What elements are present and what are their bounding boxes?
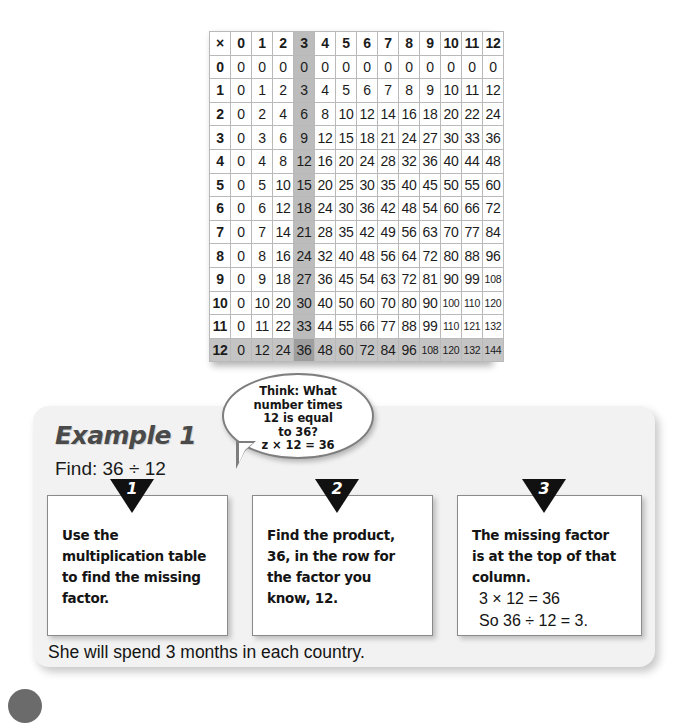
table-cell: 44 bbox=[315, 315, 336, 339]
row-header-0: 0 bbox=[210, 55, 231, 79]
step-text-2: Find the product, 36, in the row for the… bbox=[267, 525, 424, 609]
row-header-3: 3 bbox=[210, 126, 231, 150]
table-cell: 16 bbox=[315, 149, 336, 173]
column-header-12: 12 bbox=[483, 32, 504, 56]
example-panel: Example 1 Find: 36 ÷ 12 Think: What numb… bbox=[33, 406, 655, 667]
table-cell: 77 bbox=[378, 315, 399, 339]
row-header-5: 5 bbox=[210, 173, 231, 197]
step-number-badge-2: 2 bbox=[315, 479, 359, 513]
row-header-12: 12 bbox=[210, 338, 231, 362]
column-header-8: 8 bbox=[399, 32, 420, 56]
table-cell: 88 bbox=[462, 244, 483, 268]
table-cell: 66 bbox=[462, 197, 483, 221]
table-cell: 0 bbox=[483, 55, 504, 79]
thought-bubble-line: number times bbox=[224, 399, 372, 413]
table-cell: 60 bbox=[441, 197, 462, 221]
table-cell: 0 bbox=[378, 55, 399, 79]
table-cell: 0 bbox=[231, 338, 252, 362]
table-cell: 70 bbox=[378, 291, 399, 315]
table-row: 6061218243036424854606672 bbox=[210, 197, 504, 221]
table-row: 5051015202530354045505560 bbox=[210, 173, 504, 197]
table-cell: 0 bbox=[357, 55, 378, 79]
table-cell: 3 bbox=[294, 79, 315, 103]
thought-bubble: Think: What number times 12 is equal to … bbox=[222, 373, 374, 459]
table-cell: 1 bbox=[252, 79, 273, 103]
thought-bubble-line: Think: What bbox=[224, 385, 372, 399]
table-cell: 6 bbox=[294, 102, 315, 126]
step-line: 36, in the row for bbox=[267, 546, 424, 567]
table-cell: 0 bbox=[231, 79, 252, 103]
table-cell: 0 bbox=[231, 244, 252, 268]
table-row: 404812162024283236404448 bbox=[210, 149, 504, 173]
table-cell: 11 bbox=[462, 79, 483, 103]
table-cell: 7 bbox=[378, 79, 399, 103]
table-cell: 22 bbox=[273, 315, 294, 339]
table-cell: 9 bbox=[294, 126, 315, 150]
table-cell: 24 bbox=[357, 149, 378, 173]
table-cell: 108 bbox=[420, 338, 441, 362]
table-cell: 54 bbox=[357, 267, 378, 291]
table-cell: 80 bbox=[399, 291, 420, 315]
table-cell: 60 bbox=[357, 291, 378, 315]
table-row: 30369121518212427303336 bbox=[210, 126, 504, 150]
table-cell: 72 bbox=[399, 267, 420, 291]
table-cell: 54 bbox=[420, 197, 441, 221]
table-cell: 4 bbox=[315, 79, 336, 103]
table-cell: 132 bbox=[462, 338, 483, 362]
table-cell: 132 bbox=[483, 315, 504, 339]
table-row: 1201224364860728496108120132144 bbox=[210, 338, 504, 362]
table-cell: 11 bbox=[252, 315, 273, 339]
table-cell: 0 bbox=[399, 55, 420, 79]
table-cell: 30 bbox=[357, 173, 378, 197]
step-text-1: Use the multiplication table to find the… bbox=[62, 525, 219, 609]
table-cell: 32 bbox=[315, 244, 336, 268]
table-cell: 24 bbox=[483, 102, 504, 126]
table-cell: 60 bbox=[483, 173, 504, 197]
table-cell: 48 bbox=[315, 338, 336, 362]
table-cell: 45 bbox=[336, 267, 357, 291]
table-cell: 5 bbox=[252, 173, 273, 197]
table-cell: 27 bbox=[420, 126, 441, 150]
table-cell: 21 bbox=[378, 126, 399, 150]
column-header-0: 0 bbox=[231, 32, 252, 56]
table-cell: 110 bbox=[441, 315, 462, 339]
table-cell: 35 bbox=[336, 220, 357, 244]
table-cell: 20 bbox=[273, 291, 294, 315]
table-cell: 10 bbox=[252, 291, 273, 315]
step-line: the factor you bbox=[267, 567, 424, 588]
table-cell: 0 bbox=[336, 55, 357, 79]
table-cell: 0 bbox=[231, 220, 252, 244]
table-cell: 33 bbox=[462, 126, 483, 150]
table-cell: 8 bbox=[399, 79, 420, 103]
table-cell: 88 bbox=[399, 315, 420, 339]
table-cell: 0 bbox=[420, 55, 441, 79]
row-header-9: 9 bbox=[210, 267, 231, 291]
table-cell: 24 bbox=[399, 126, 420, 150]
table-cell: 36 bbox=[420, 149, 441, 173]
table-cell: 50 bbox=[441, 173, 462, 197]
bottom-sentence: She will spend 3 months in each country. bbox=[48, 642, 365, 663]
page-number-bullet-icon bbox=[8, 689, 42, 723]
row-header-11: 11 bbox=[210, 315, 231, 339]
table-cell: 60 bbox=[336, 338, 357, 362]
table-cell: 15 bbox=[294, 173, 315, 197]
table-cell: 50 bbox=[336, 291, 357, 315]
table-cell: 40 bbox=[441, 149, 462, 173]
step-line: is at the top of that bbox=[472, 546, 633, 567]
table-cell: 99 bbox=[462, 267, 483, 291]
table-cell: 33 bbox=[294, 315, 315, 339]
table-cell: 27 bbox=[294, 267, 315, 291]
table-cell: 4 bbox=[252, 149, 273, 173]
table-cell: 12 bbox=[273, 197, 294, 221]
table-cell: 22 bbox=[462, 102, 483, 126]
table-cell: 36 bbox=[315, 267, 336, 291]
table-cell: 7 bbox=[252, 220, 273, 244]
table-cell: 16 bbox=[399, 102, 420, 126]
step-line: Use the bbox=[62, 525, 219, 546]
table-cell: 44 bbox=[462, 149, 483, 173]
thought-bubble-tail-icon bbox=[236, 441, 256, 469]
table-cell: 16 bbox=[273, 244, 294, 268]
table-cell: 8 bbox=[315, 102, 336, 126]
table-cell: 18 bbox=[273, 267, 294, 291]
multiplication-table-figure: ×012345678910111200000000000000101234567… bbox=[209, 31, 490, 362]
